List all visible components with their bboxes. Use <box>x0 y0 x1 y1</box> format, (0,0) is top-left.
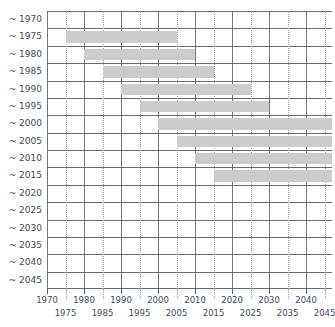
y-axis-label: ~ 1985 <box>9 63 42 80</box>
x-axis-label: 2045 <box>314 308 335 318</box>
gridline-horizontal <box>47 115 332 116</box>
y-axis-label: ~ 1970 <box>9 11 42 28</box>
y-axis-label: ~ 2020 <box>9 185 42 202</box>
x-axis-tick-minor <box>288 289 289 299</box>
gridline-horizontal <box>47 167 332 168</box>
x-axis-label: 2015 <box>203 308 225 318</box>
y-axis-label: ~ 2005 <box>9 133 42 150</box>
gantt-bar <box>103 66 214 77</box>
gridline-horizontal <box>47 254 332 255</box>
x-axis-label: 2000 <box>147 295 169 305</box>
x-axis-tick-major <box>306 289 307 294</box>
x-axis-tick-minor <box>325 289 326 299</box>
x-axis-label: 1975 <box>55 308 77 318</box>
x-axis-label: 1985 <box>92 308 114 318</box>
gantt-bar <box>158 118 332 129</box>
x-axis-tick-major <box>269 289 270 294</box>
x-axis-tick-major <box>232 289 233 294</box>
gridline-vertical-minor <box>325 11 326 289</box>
y-axis-label: ~ 1980 <box>9 46 42 63</box>
gridline-horizontal <box>47 133 332 134</box>
gantt-bar <box>195 153 332 164</box>
gantt-bar <box>121 84 251 95</box>
x-axis-tick-major <box>84 289 85 294</box>
gantt-bar <box>66 31 177 42</box>
x-axis-tick-minor <box>66 289 67 299</box>
gridline-vertical-minor <box>288 11 289 289</box>
gridline-horizontal <box>47 185 332 186</box>
x-axis-label: 1970 <box>36 295 58 305</box>
gridline-horizontal <box>47 237 332 238</box>
gantt-chart: ~ 1970~ 1975~ 1980~ 1985~ 1990~ 1995~ 20… <box>0 0 335 327</box>
x-axis-label: 2025 <box>240 308 262 318</box>
x-axis-label: 2035 <box>277 308 299 318</box>
gridline-horizontal <box>47 98 332 99</box>
x-axis-label: 2040 <box>295 295 317 305</box>
y-axis-label: ~ 1990 <box>9 81 42 98</box>
y-axis-label: ~ 1975 <box>9 28 42 45</box>
x-axis-tick-major <box>195 289 196 294</box>
y-axis-label: ~ 2040 <box>9 254 42 271</box>
x-axis-label: 1980 <box>73 295 95 305</box>
gridline-vertical-major <box>306 11 307 289</box>
y-axis-label: ~ 2030 <box>9 220 42 237</box>
plot-area <box>47 11 332 289</box>
y-axis-label: ~ 2010 <box>9 150 42 167</box>
gridline-vertical-minor <box>214 11 215 289</box>
x-axis-tick-minor <box>214 289 215 299</box>
y-axis-label: ~ 2035 <box>9 237 42 254</box>
x-axis-label: 2030 <box>258 295 280 305</box>
gridline-horizontal <box>47 11 332 12</box>
gridline-horizontal <box>47 28 332 29</box>
x-axis-tick-major <box>121 289 122 294</box>
gridline-horizontal <box>47 81 332 82</box>
x-axis-label: 1990 <box>110 295 132 305</box>
gridline-vertical-minor <box>251 11 252 289</box>
gantt-bar <box>140 101 270 112</box>
y-axis-label: ~ 2025 <box>9 202 42 219</box>
x-axis-tick-minor <box>177 289 178 299</box>
y-axis: ~ 1970~ 1975~ 1980~ 1985~ 1990~ 1995~ 20… <box>0 11 47 289</box>
y-axis-label: ~ 2000 <box>9 115 42 132</box>
gridline-vertical-minor <box>66 11 67 289</box>
x-axis-tick-major <box>47 289 48 294</box>
gantt-bar <box>177 136 332 147</box>
y-axis-label: ~ 2015 <box>9 167 42 184</box>
gridline-vertical-major <box>195 11 196 289</box>
x-axis-label: 1995 <box>129 308 151 318</box>
gridline-horizontal <box>47 46 332 47</box>
x-axis-tick-minor <box>140 289 141 299</box>
gridline-horizontal <box>47 202 332 203</box>
gridline-vertical-major <box>232 11 233 289</box>
x-axis-label: 2020 <box>221 295 243 305</box>
gridline-vertical-major <box>47 11 48 289</box>
x-axis: 1970198019902000201020202030204019751985… <box>47 289 332 327</box>
gridline-horizontal <box>47 63 332 64</box>
gridline-vertical-major <box>269 11 270 289</box>
y-axis-label: ~ 2045 <box>9 272 42 289</box>
gantt-bar <box>84 49 195 60</box>
x-axis-tick-major <box>158 289 159 294</box>
x-axis-tick-minor <box>251 289 252 299</box>
x-axis-tick-minor <box>103 289 104 299</box>
gridline-horizontal <box>47 272 332 273</box>
gridline-horizontal <box>47 150 332 151</box>
x-axis-label: 2010 <box>184 295 206 305</box>
gridline-horizontal <box>47 220 332 221</box>
gantt-bar <box>214 170 332 181</box>
y-axis-label: ~ 1995 <box>9 98 42 115</box>
x-axis-label: 2005 <box>166 308 188 318</box>
